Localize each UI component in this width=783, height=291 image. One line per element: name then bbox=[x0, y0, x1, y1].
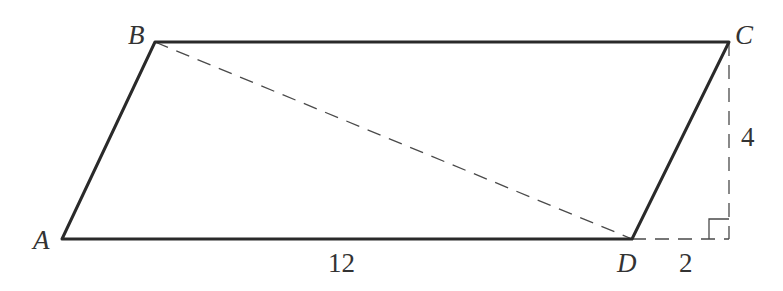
vertex-label-a: A bbox=[31, 225, 50, 255]
vertex-label-d: D bbox=[616, 248, 637, 278]
height-label: 4 bbox=[741, 122, 755, 152]
parallelogram-diagram: A B C D 12 4 2 bbox=[0, 0, 783, 291]
diagonal-bd bbox=[155, 42, 632, 239]
right-angle-marker bbox=[709, 219, 729, 239]
vertex-label-b: B bbox=[128, 20, 145, 50]
extension-length-label: 2 bbox=[679, 248, 693, 278]
base-length-label: 12 bbox=[328, 248, 355, 278]
vertex-label-c: C bbox=[735, 20, 754, 50]
parallelogram-abcd bbox=[62, 42, 729, 239]
